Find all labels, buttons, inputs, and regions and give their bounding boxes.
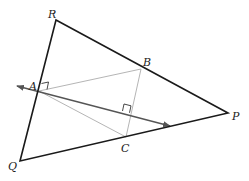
label-c: C <box>121 142 130 155</box>
segment-bc <box>126 69 141 137</box>
label-a: A <box>28 80 37 93</box>
label-p: P <box>231 110 240 123</box>
label-b: B <box>142 56 151 69</box>
geometry-diagram: R P Q A B C <box>0 0 249 181</box>
outer-triangle-pqr <box>20 20 228 161</box>
label-r: R <box>47 8 56 21</box>
right-angle-marker-a <box>42 82 49 90</box>
inner-triangle-abc <box>39 69 141 137</box>
triangle-rpq <box>20 20 228 161</box>
segment-ab <box>39 69 141 91</box>
segment-ac <box>39 91 126 137</box>
right-angle-marker-bc <box>123 104 132 113</box>
label-q: Q <box>8 160 17 173</box>
